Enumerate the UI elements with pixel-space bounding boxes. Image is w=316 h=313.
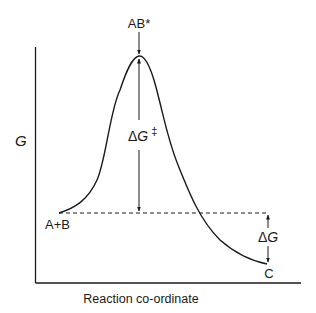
energy-curve xyxy=(59,56,267,264)
y-axis-label: G xyxy=(15,132,27,149)
axes xyxy=(36,47,302,283)
products-label: C xyxy=(264,266,273,281)
activation-energy-label: ΔG‡ xyxy=(128,125,157,144)
transition-state-label: AB* xyxy=(128,16,150,31)
free-energy-change-label: ΔG xyxy=(258,229,278,245)
reactants-label: A+B xyxy=(45,217,70,232)
x-axis-label: Reaction co-ordinate xyxy=(83,292,198,306)
energy-profile-diagram: G Reaction co-ordinate AB* ΔG‡ A+B ΔG C xyxy=(0,0,316,313)
